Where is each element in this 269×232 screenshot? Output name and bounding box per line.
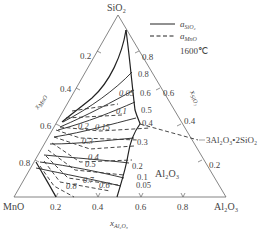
mno-boundary	[36, 162, 56, 197]
alumina-region-label: Al₂O₃	[155, 168, 179, 179]
svg-text:0.2: 0.2	[209, 160, 220, 170]
svg-text:0.2: 0.2	[50, 202, 61, 212]
vertex-sio2: SiO₂	[107, 2, 126, 13]
temperature-label: 1600℃	[180, 46, 208, 56]
svg-text:0.8: 0.8	[66, 181, 77, 191]
svg-text:0.8: 0.8	[19, 158, 31, 168]
svg-text:0.4: 0.4	[142, 118, 153, 128]
svg-text:0.8: 0.8	[142, 52, 154, 62]
svg-text:0.05: 0.05	[119, 88, 134, 98]
svg-text:0.4: 0.4	[60, 84, 72, 94]
svg-text:0.6: 0.6	[40, 121, 52, 131]
svg-text:0.6: 0.6	[140, 88, 151, 98]
svg-text:0.2: 0.2	[78, 121, 89, 131]
svg-text:0.6: 0.6	[163, 88, 175, 98]
svg-text:0.2: 0.2	[80, 51, 91, 61]
vertex-al2o3: Al₂O₃	[214, 201, 238, 212]
svg-text:0.3: 0.3	[82, 136, 93, 146]
svg-text:0.1: 0.1	[116, 106, 127, 116]
svg-text:0.4: 0.4	[184, 116, 196, 126]
mullite-label: 3Al₂O₃•2SiO₂	[206, 135, 257, 145]
svg-text:0.3: 0.3	[137, 137, 148, 147]
svg-text:0.5: 0.5	[85, 159, 96, 169]
svg-text:0.05: 0.05	[136, 180, 151, 190]
svg-text:0.15: 0.15	[95, 122, 110, 132]
vertex-mno: MnO	[3, 201, 24, 212]
bottom-axis-label: xAl₂O₃	[109, 218, 128, 229]
svg-text:0.4: 0.4	[92, 202, 104, 212]
ternary-diagram: aSiO₂ aMnO 1600℃ SiO₂ MnO Al₂O₃ 0.2 0.4 …	[0, 0, 269, 232]
left-axis-label: xMnO	[31, 92, 48, 112]
svg-text:0.8: 0.8	[138, 69, 149, 79]
svg-text:0.5: 0.5	[141, 105, 152, 115]
dashed-isolines	[40, 104, 198, 197]
svg-text:aMnO: aMnO	[180, 31, 197, 42]
svg-text:0.6: 0.6	[135, 202, 147, 212]
svg-text:aSiO₂: aSiO₂	[180, 19, 196, 30]
svg-text:0.6: 0.6	[99, 180, 110, 190]
svg-text:0.7: 0.7	[83, 175, 94, 185]
svg-text:0.8: 0.8	[177, 202, 189, 212]
legend: aSiO₂ aMnO 1600℃	[150, 19, 208, 56]
right-axis-label: xSiO₂	[187, 88, 203, 107]
svg-text:0.2: 0.2	[132, 161, 143, 171]
